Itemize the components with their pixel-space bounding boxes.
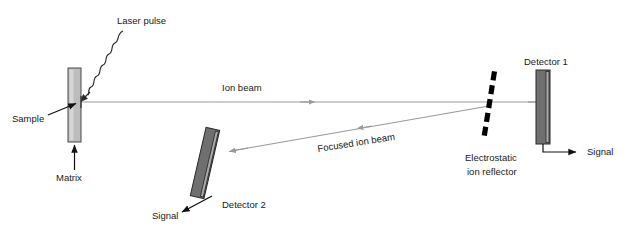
detector-2: Detector 2 Signal <box>152 127 266 220</box>
reflector-dash-4 <box>486 113 487 122</box>
reflector-label-line2: ion reflector <box>467 166 517 177</box>
detector-1: Detector 1 Signal <box>524 56 613 157</box>
detector-1-stripe <box>546 72 549 143</box>
reflector-dash-5 <box>484 127 485 136</box>
detector-1-signal-label: Signal <box>587 146 613 157</box>
laser-pulse-label: Laser pulse <box>117 15 166 26</box>
matrix-sample-plate <box>68 68 81 142</box>
sample-annotation: Sample <box>12 104 76 124</box>
matrix-annotation: Matrix <box>56 145 82 183</box>
ion-beam-group: Ion beam <box>81 82 543 102</box>
matrix-label: Matrix <box>56 172 82 183</box>
detector-2-signal-lead <box>182 196 212 212</box>
ion-beam-label: Ion beam <box>222 82 262 93</box>
detector-2-signal-label: Signal <box>152 210 178 221</box>
reflector-dash-3 <box>489 99 490 108</box>
reflector-dash-1 <box>493 71 494 80</box>
laser-pulse-wave <box>88 31 123 95</box>
detector-1-label: Detector 1 <box>524 56 568 67</box>
laser-pulse-group: Laser pulse <box>80 15 166 102</box>
schematic-canvas: Ion beam Focused ion beam Laser pulse Sa… <box>0 0 638 230</box>
maldi-tof-diagram: Ion beam Focused ion beam Laser pulse Sa… <box>0 0 638 230</box>
reflector-dash-2 <box>491 85 492 94</box>
detector-1-signal-lead <box>543 144 576 152</box>
detector-2-label: Detector 2 <box>222 199 266 210</box>
sample-label: Sample <box>12 113 44 124</box>
focused-ion-beam-group: Focused ion beam <box>229 106 489 154</box>
reflector-label-line1: Electrostatic <box>465 152 517 163</box>
electrostatic-ion-reflector: Electrostatic ion reflector <box>465 71 517 176</box>
focused-ion-beam-arrow <box>229 148 248 152</box>
